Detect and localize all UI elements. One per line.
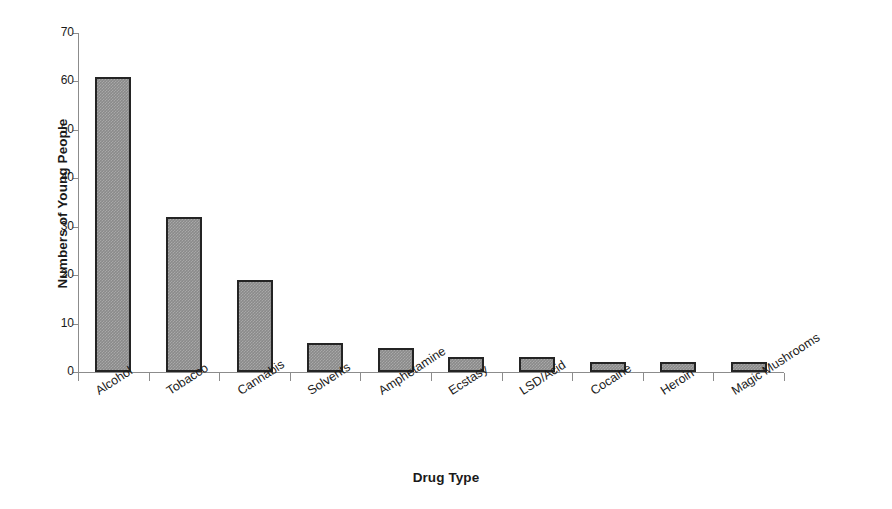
x-tick-mark — [572, 373, 573, 381]
x-tick-mark — [219, 373, 220, 381]
bar — [95, 77, 131, 372]
y-tick-label: 0 — [67, 364, 74, 378]
x-tick-mark — [502, 373, 503, 381]
y-axis-title: Numbers of Young People — [55, 54, 70, 354]
y-axis-line — [78, 33, 79, 372]
x-tick-mark — [643, 373, 644, 381]
y-tick-label: 20 — [61, 267, 74, 281]
x-tick-mark — [78, 373, 79, 381]
y-tick-label: 70 — [61, 25, 74, 39]
x-tick-mark — [784, 373, 785, 381]
bar-chart: Numbers of Young People 010203040506070 … — [0, 0, 892, 509]
x-tick-mark — [149, 373, 150, 381]
y-tick-label: 40 — [61, 170, 74, 184]
x-axis-title: Drug Type — [0, 470, 892, 485]
y-tick-label: 60 — [61, 73, 74, 87]
y-tick-label: 30 — [61, 219, 74, 233]
y-tick-label: 10 — [61, 316, 74, 330]
bar — [237, 280, 273, 372]
plot-area: 010203040506070 — [78, 33, 784, 372]
x-tick-mark — [360, 373, 361, 381]
y-tick-label: 50 — [61, 122, 74, 136]
x-tick-mark — [290, 373, 291, 381]
bar — [166, 217, 202, 372]
x-tick-mark — [713, 373, 714, 381]
x-tick-mark — [431, 373, 432, 381]
